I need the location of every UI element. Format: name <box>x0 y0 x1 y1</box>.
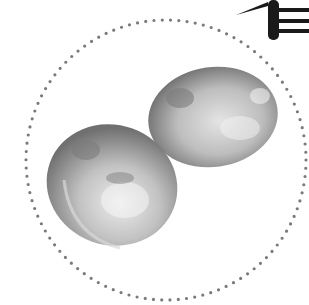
calligraphy-stroke-icon <box>236 0 309 40</box>
illustration <box>0 0 309 305</box>
